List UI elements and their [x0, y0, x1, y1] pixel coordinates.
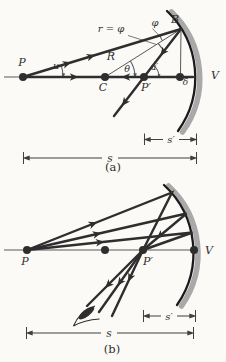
label-R: R — [106, 50, 115, 63]
diverging-ray-1 — [112, 250, 143, 316]
eye-lower-lid — [74, 319, 100, 326]
label-phi: φ — [151, 17, 158, 28]
label-s-b: s — [106, 327, 112, 339]
label-C: C — [99, 81, 108, 94]
label-reflection-note: r = φ — [98, 23, 125, 34]
label-P-prime-a: P′ — [140, 81, 151, 94]
caption-b: (b) — [104, 342, 120, 356]
label-P-b: P — [20, 255, 29, 268]
diverging-ray-3 — [87, 250, 143, 306]
label-V-b: V — [205, 244, 214, 257]
label-theta: θ — [124, 63, 130, 74]
point-P-prime — [140, 73, 148, 81]
radius-line-CB — [105, 29, 181, 77]
point-P — [19, 73, 27, 81]
label-B: B — [170, 13, 179, 26]
vertical-drop-from-B — [181, 29, 182, 73]
point-V-b — [190, 246, 198, 254]
panel-a: P u r = φ φ B R θ u′ C P′ δ V s′ s (a) — [4, 11, 220, 174]
label-s-prime-b: s′ — [165, 311, 173, 322]
arrowhead-incident-b1 — [88, 219, 99, 229]
label-u: u — [53, 60, 59, 71]
textbook-optics-figure: P u r = φ φ B R θ u′ C P′ δ V s′ s (a) — [0, 0, 226, 362]
caption-a: (a) — [105, 160, 121, 174]
angle-arc-reflection — [158, 43, 164, 50]
observer-eye-icon — [74, 304, 100, 326]
label-s-prime-a: s′ — [167, 134, 175, 145]
spherical-mirror-diagram: P u r = φ φ B R θ u′ C P′ δ V s′ s (a) — [0, 0, 226, 362]
point-C — [101, 73, 109, 81]
panel-b: P P′ V s′ s (b) — [4, 185, 214, 356]
label-delta: δ — [183, 77, 188, 87]
point-center-b — [101, 246, 109, 254]
point-P-prime-b — [139, 246, 147, 254]
label-V-a: V — [211, 69, 220, 82]
point-P-b — [23, 246, 31, 254]
label-u-prime: u′ — [151, 62, 158, 72]
label-P-a: P — [17, 56, 26, 69]
label-P-prime-b: P′ — [142, 255, 153, 268]
